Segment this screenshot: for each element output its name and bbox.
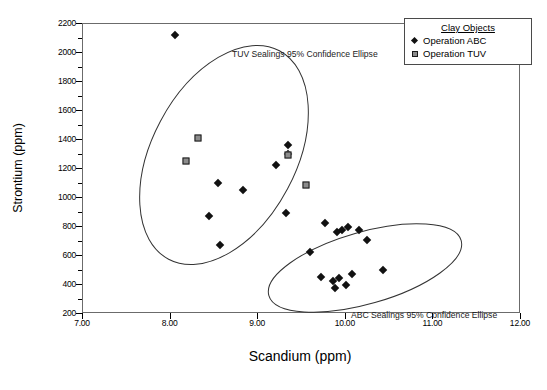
x-axis-title: Scandium (ppm) <box>249 348 352 364</box>
y-tick-mark <box>76 284 82 285</box>
y-tick-mark-minor <box>78 154 82 155</box>
y-tick-mark <box>76 110 82 111</box>
data-point-tuv <box>284 151 291 158</box>
chart-legend: Clay Objects Operation ABC Operation TUV <box>404 18 532 65</box>
x-tick-mark <box>345 313 346 319</box>
y-tick-mark <box>76 81 82 82</box>
data-point-tuv <box>194 134 201 141</box>
y-tick-mark-minor <box>78 270 82 271</box>
y-tick-mark <box>76 255 82 256</box>
scatter-chart: 2004006008001000120014001600180020002200… <box>0 0 547 390</box>
x-tick-mark <box>520 313 521 319</box>
tuv-ellipse-annotation: TUV Sealings 95% Confidence Ellipse <box>232 49 378 59</box>
x-tick-label: 12.00 <box>510 318 530 328</box>
diamond-marker-icon <box>410 38 419 43</box>
y-tick-mark-minor <box>78 125 82 126</box>
x-tick-mark <box>257 313 258 319</box>
square-marker-icon <box>410 51 419 57</box>
y-tick-label: 1400 <box>28 134 76 144</box>
y-tick-label: 800 <box>28 221 76 231</box>
y-tick-label: 400 <box>28 279 76 289</box>
y-tick-mark-minor <box>78 67 82 68</box>
y-tick-mark <box>76 226 82 227</box>
legend-item-operation-abc: Operation ABC <box>410 34 526 47</box>
y-tick-label: 1800 <box>28 76 76 86</box>
y-tick-mark <box>76 197 82 198</box>
abc-ellipse-annotation: ABC Sealings 95% Confidence Ellipse <box>351 310 497 320</box>
x-tick-mark <box>170 313 171 319</box>
y-tick-mark-minor <box>78 299 82 300</box>
y-tick-mark-minor <box>78 96 82 97</box>
y-tick-label: 2200 <box>28 18 76 28</box>
x-tick-mark <box>82 313 83 319</box>
y-tick-label: 1200 <box>28 163 76 173</box>
legend-title: Clay Objects <box>410 22 526 33</box>
x-tick-label: 7.00 <box>74 318 90 328</box>
x-tick-label: 9.00 <box>249 318 265 328</box>
y-tick-mark <box>76 139 82 140</box>
y-tick-mark <box>76 168 82 169</box>
legend-label-operation-tuv: Operation TUV <box>423 47 486 60</box>
data-point-tuv <box>183 157 190 164</box>
y-tick-label: 200 <box>28 308 76 318</box>
data-point-tuv <box>303 182 310 189</box>
y-tick-label: 2000 <box>28 47 76 57</box>
plot-area <box>82 23 520 313</box>
y-tick-label: 1600 <box>28 105 76 115</box>
y-tick-mark <box>76 23 82 24</box>
y-tick-mark-minor <box>78 183 82 184</box>
legend-item-operation-tuv: Operation TUV <box>410 47 526 60</box>
y-tick-mark-minor <box>78 212 82 213</box>
y-tick-mark <box>76 52 82 53</box>
y-axis-title-wrapper: Strontium (ppm) <box>20 0 21 390</box>
y-axis-title: Strontium (ppm) <box>11 123 25 213</box>
x-tick-label: 8.00 <box>162 318 178 328</box>
legend-label-operation-abc: Operation ABC <box>423 34 486 47</box>
y-tick-mark-minor <box>78 241 82 242</box>
y-tick-mark-minor <box>78 38 82 39</box>
y-tick-label: 600 <box>28 250 76 260</box>
y-tick-label: 1000 <box>28 192 76 202</box>
